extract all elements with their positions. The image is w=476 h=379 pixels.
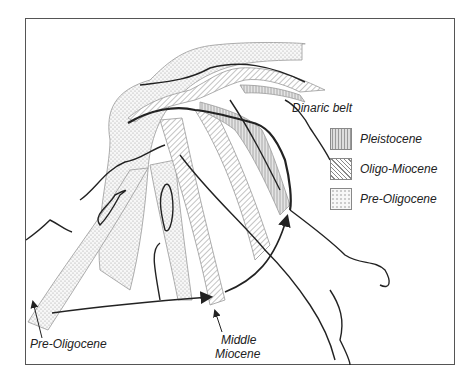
legend-item-pre-oligocene: Pre-Oligocene (330, 188, 437, 210)
legend-label: Oligo-Miocene (360, 162, 437, 176)
arrow-middle-miocene (215, 311, 222, 332)
vertical-hatch-swatch-icon (330, 128, 352, 150)
legend-item-pleistocene: Pleistocene (330, 128, 422, 150)
label-pre-oligocene: Pre-Oligocene (30, 337, 107, 351)
legend-item-oligo-miocene: Oligo-Miocene (330, 158, 437, 180)
label-dinaric-belt: Dinaric belt (292, 101, 352, 115)
legend-label: Pleistocene (360, 132, 422, 146)
diagonal-hatch-swatch-icon (330, 158, 352, 180)
dotted-swatch-icon (330, 188, 352, 210)
legend-label: Pre-Oligocene (360, 192, 437, 206)
label-middle-miocene-line1: Middle (215, 333, 260, 347)
label-middle-miocene: Middle Miocene (215, 333, 260, 361)
migration-arc-1 (52, 297, 210, 313)
label-middle-miocene-line2: Miocene (215, 347, 260, 361)
